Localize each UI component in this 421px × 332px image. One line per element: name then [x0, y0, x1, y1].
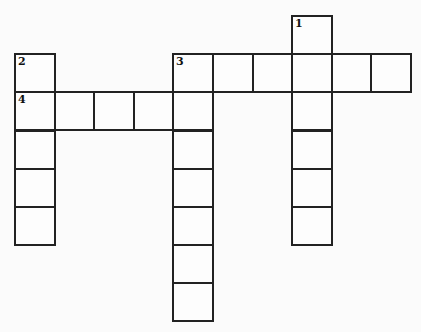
- crossword-cell[interactable]: [212, 53, 254, 93]
- crossword-cell[interactable]: [172, 130, 214, 170]
- clue-number: 4: [18, 94, 26, 105]
- crossword-cell[interactable]: [370, 53, 412, 93]
- crossword-cell[interactable]: [54, 91, 96, 131]
- crossword-cell[interactable]: [14, 206, 56, 246]
- crossword-cell[interactable]: 4: [14, 91, 56, 131]
- crossword-cell[interactable]: [172, 282, 214, 322]
- crossword-cell[interactable]: [14, 168, 56, 208]
- crossword-cell[interactable]: [172, 244, 214, 284]
- crossword-cell[interactable]: 2: [14, 53, 56, 93]
- crossword-cell[interactable]: [172, 91, 214, 131]
- crossword-cell[interactable]: [291, 168, 333, 208]
- clue-number: 3: [176, 56, 184, 67]
- crossword-cell[interactable]: [172, 206, 214, 246]
- crossword-cell[interactable]: [93, 91, 135, 131]
- clue-number: 2: [18, 56, 26, 67]
- crossword-cell[interactable]: 1: [291, 15, 333, 55]
- crossword-cell[interactable]: [291, 91, 333, 131]
- crossword-cell[interactable]: [14, 130, 56, 170]
- crossword-cell[interactable]: 3: [172, 53, 214, 93]
- crossword-cell[interactable]: [291, 130, 333, 170]
- crossword-cell[interactable]: [291, 53, 333, 93]
- crossword-cell[interactable]: [172, 168, 214, 208]
- crossword-cell[interactable]: [331, 53, 373, 93]
- clue-number: 1: [295, 18, 303, 29]
- crossword-cell[interactable]: [133, 91, 175, 131]
- crossword-cell[interactable]: [252, 53, 294, 93]
- crossword-cell[interactable]: [291, 206, 333, 246]
- crossword-grid: 1234: [0, 0, 421, 332]
